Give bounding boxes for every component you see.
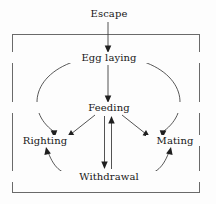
node-label-feeding: Feeding xyxy=(0,102,216,113)
edge-feeding-to-mating xyxy=(122,115,146,134)
arrowhead-withdrawal-to-feeding xyxy=(108,116,114,124)
node-label-egg-laying: Egg laying xyxy=(0,52,216,63)
arrowhead-arc-bl-to-righting xyxy=(44,147,51,155)
edge-feeding-to-righting xyxy=(71,115,95,134)
node-label-righting: Righting xyxy=(14,135,76,146)
arrowhead-arc-br-to-mating xyxy=(166,147,173,155)
node-label-withdrawal: Withdrawal xyxy=(0,171,216,182)
edge-righting-egg-laying-arc xyxy=(37,60,79,133)
edge-mating-egg-laying-arc xyxy=(138,60,180,133)
diagram-root: Escape Egg laying Feeding Righting Matin… xyxy=(0,0,216,204)
node-label-escape: Escape xyxy=(0,8,216,19)
node-label-mating: Mating xyxy=(146,135,204,146)
arrowhead-feeding-to-withdrawal xyxy=(101,162,107,170)
